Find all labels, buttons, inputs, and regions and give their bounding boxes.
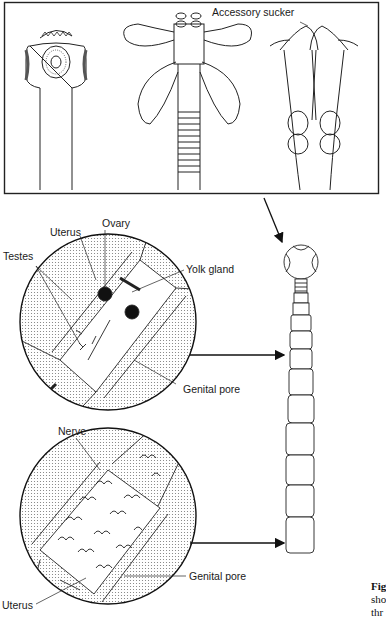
whole-worm [284, 245, 318, 553]
figure-caption: Fig sho thr [371, 580, 386, 619]
label-uterus-mature: Uterus [50, 227, 81, 238]
mature-proglottid-magnified [20, 230, 210, 420]
label-testes: Testes [3, 251, 33, 262]
label-accessory-sucker: Accessory sucker [212, 7, 294, 18]
label-genital-pore-gravid: Genital pore [189, 571, 246, 582]
label-uterus-gravid: Uterus [2, 600, 33, 611]
arrow-to-scolex [264, 198, 282, 242]
scolex-split [270, 26, 358, 190]
label-yolk-gland: Yolk gland [186, 264, 234, 275]
label-genital-pore-mature: Genital pore [183, 384, 240, 395]
label-nerve: Nerve [58, 426, 86, 437]
caption-line-1: Fig [371, 580, 386, 592]
label-ovary: Ovary [102, 218, 130, 229]
scolex-bothridia [124, 13, 252, 190]
caption-line-3: thr [371, 606, 383, 618]
gravid-proglottid-magnified [20, 428, 196, 604]
scolex-hooked [26, 30, 86, 190]
caption-line-2: sho [371, 593, 386, 605]
